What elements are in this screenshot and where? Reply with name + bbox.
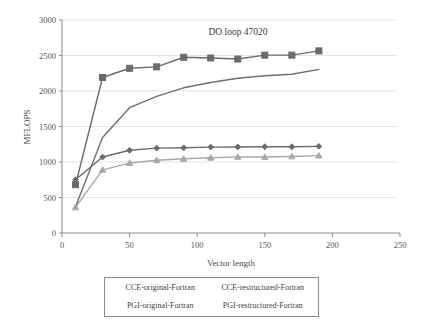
series-2 — [73, 143, 322, 182]
svg-text:1000: 1000 — [39, 157, 56, 167]
chart-title: DO loop 47020 — [208, 27, 267, 37]
x-axis-tick-labels: 050100150200250 — [60, 240, 407, 250]
legend-entry-cce-restructured: CCE-restructured-Fortran — [212, 284, 315, 292]
series-3 — [72, 153, 322, 210]
y-axis-tick-labels: 050010001500200025003000 — [39, 15, 56, 238]
legend-entry-pgi-original: PGI-original-Fortran — [109, 302, 212, 310]
svg-text:0: 0 — [60, 240, 64, 250]
svg-text:50: 50 — [125, 240, 134, 250]
svg-text:100: 100 — [191, 240, 204, 250]
x-axis-ticks — [62, 233, 400, 237]
svg-text:2000: 2000 — [39, 86, 56, 96]
chart-legend: CCE-original-Fortran CCE-restructured-Fo… — [104, 277, 319, 317]
svg-text:1500: 1500 — [39, 122, 56, 132]
y-axis-title: MFLOPS — [22, 109, 32, 144]
svg-text:500: 500 — [43, 193, 56, 203]
chart-figure: 050010001500200025003000 050100150200250… — [0, 0, 425, 329]
svg-text:0: 0 — [52, 228, 56, 238]
svg-text:2500: 2500 — [39, 51, 56, 61]
legend-entry-pgi-restructured: PGI-restructured-Fortran — [212, 302, 315, 310]
svg-text:200: 200 — [326, 240, 339, 250]
legend-entry-cce-original: CCE-original-Fortran — [109, 284, 212, 292]
svg-text:250: 250 — [394, 240, 407, 250]
gridlines — [62, 20, 397, 198]
svg-text:3000: 3000 — [39, 15, 56, 25]
series-1 — [76, 69, 319, 206]
svg-text:150: 150 — [258, 240, 271, 250]
series-0 — [73, 48, 322, 188]
x-axis-title: Vector length — [207, 258, 256, 268]
data-series-layer — [72, 48, 322, 210]
